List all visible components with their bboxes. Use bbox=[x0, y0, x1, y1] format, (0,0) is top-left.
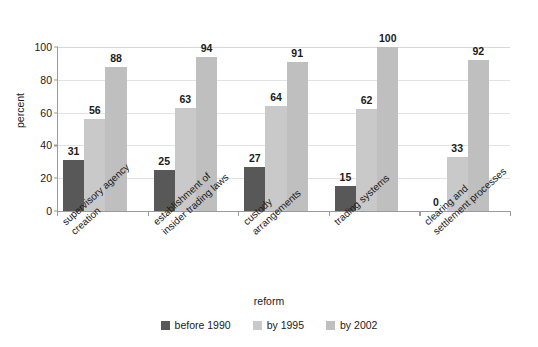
x-tick-mark bbox=[329, 211, 330, 216]
legend-label: by 1995 bbox=[267, 319, 304, 331]
legend-swatch bbox=[161, 321, 170, 330]
legend-label: by 2002 bbox=[340, 319, 377, 331]
bar-value-label: 25 bbox=[158, 155, 170, 167]
bar-value-label: 94 bbox=[201, 42, 213, 54]
x-tick-mark bbox=[510, 211, 511, 216]
bar-value-label: 88 bbox=[110, 52, 122, 64]
y-tick-label: 80 bbox=[40, 74, 52, 86]
y-axis-title: percent bbox=[14, 93, 26, 128]
bar-value-label: 31 bbox=[68, 145, 80, 157]
y-tick-label: 100 bbox=[34, 41, 52, 53]
x-tick-mark bbox=[57, 211, 58, 216]
bar-value-label: 27 bbox=[249, 152, 261, 164]
x-tick-mark bbox=[148, 211, 149, 216]
bar-value-label: 62 bbox=[361, 94, 373, 106]
legend-item[interactable]: by 1995 bbox=[253, 319, 304, 331]
bar-value-label: 100 bbox=[379, 32, 397, 44]
x-axis-title: reform bbox=[0, 295, 538, 307]
legend-label: before 1990 bbox=[175, 319, 231, 331]
legend-item[interactable]: before 1990 bbox=[161, 319, 231, 331]
y-tick-label: 60 bbox=[40, 107, 52, 119]
bar-value-label: 92 bbox=[473, 45, 485, 57]
bar-chart: percent 02040608010031568825639427649115… bbox=[0, 0, 538, 347]
bar-value-label: 15 bbox=[340, 171, 352, 183]
bar-value-label: 91 bbox=[291, 47, 303, 59]
legend-item[interactable]: by 2002 bbox=[326, 319, 377, 331]
y-tick-label: 0 bbox=[46, 205, 52, 217]
legend-swatch bbox=[253, 321, 262, 330]
chart-legend: before 1990by 1995by 2002 bbox=[0, 319, 538, 331]
bar-value-label: 56 bbox=[89, 104, 101, 116]
y-tick-label: 20 bbox=[40, 172, 52, 184]
bar-value-label: 33 bbox=[451, 142, 463, 154]
bar-value-label: 64 bbox=[270, 91, 282, 103]
bar-value-label: 63 bbox=[180, 93, 192, 105]
legend-swatch bbox=[326, 321, 335, 330]
y-tick-label: 40 bbox=[40, 139, 52, 151]
x-tick-mark bbox=[238, 211, 239, 216]
x-tick-mark bbox=[419, 211, 420, 216]
